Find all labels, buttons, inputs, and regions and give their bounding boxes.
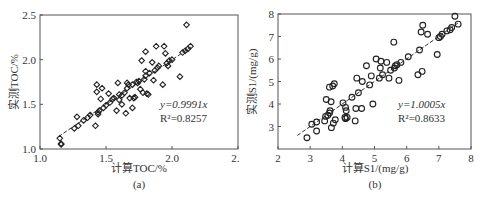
panel-b: 2345678345678 y=1.0005x R²=0.8633 计算S1/(…	[240, 0, 481, 197]
data-point	[380, 72, 386, 78]
data-point	[94, 82, 100, 88]
data-point	[367, 82, 373, 88]
data-point	[149, 60, 155, 66]
x-tick-label: 2.5	[231, 152, 240, 164]
data-point	[425, 31, 431, 37]
caption-a: (a)	[133, 178, 146, 191]
fit-r2-a: R²=0.8257	[160, 112, 208, 124]
data-point	[304, 135, 310, 141]
data-point	[434, 52, 440, 58]
data-point	[163, 51, 169, 57]
y-tick-label: 1.0	[22, 143, 36, 155]
x-axis-title-b: 计算S1/(mg/g)	[342, 161, 409, 175]
data-point	[384, 59, 390, 65]
data-point	[93, 123, 99, 129]
data-point	[396, 77, 402, 83]
data-point	[405, 54, 411, 60]
scatter-plot-a: 1.01.52.02.51.01.52.02.5 y=0.9991x R²=0.…	[0, 0, 240, 197]
data-point	[419, 68, 425, 74]
x-axis-title-a: 计算TOC/%	[111, 161, 167, 174]
data-point	[177, 74, 183, 80]
data-point	[160, 82, 166, 88]
data-point	[377, 65, 383, 71]
y-tick-label: 4	[269, 98, 275, 110]
data-point	[127, 95, 133, 101]
x-tick-label: 8	[468, 152, 474, 164]
data-point	[184, 22, 190, 28]
data-point	[99, 85, 105, 91]
data-point	[130, 105, 136, 111]
y-tick-label: 2.0	[22, 54, 36, 66]
data-point	[352, 118, 358, 124]
data-point	[314, 128, 320, 134]
data-point	[418, 29, 424, 35]
y-tick-label: 2.5	[22, 9, 36, 21]
data-point	[314, 119, 320, 125]
data-point	[114, 108, 120, 114]
data-point	[143, 49, 149, 55]
y-tick-label: 5	[269, 76, 275, 88]
x-tick-label: 2.0	[165, 152, 179, 164]
data-point	[370, 101, 376, 107]
fit-equation-b: y=1.0005x	[397, 98, 446, 110]
y-axis-title-a: 实测TOC/%	[7, 54, 20, 110]
data-point	[364, 63, 370, 69]
data-point	[74, 114, 80, 120]
y-tick-label: 6	[269, 53, 275, 65]
data-point	[94, 89, 100, 95]
y-tick-label: 7	[269, 31, 275, 43]
fit-r2-b: R²=0.8633	[398, 112, 446, 124]
data-point	[359, 106, 365, 112]
data-point	[151, 77, 157, 83]
data-point	[328, 99, 334, 105]
data-point	[391, 39, 397, 45]
y-tick-label: 1.5	[22, 98, 36, 110]
data-point	[115, 80, 121, 86]
data-points-a	[57, 22, 193, 147]
scatter-plot-b: 2345678345678 y=1.0005x R²=0.8633 计算S1/(…	[240, 0, 481, 197]
data-point	[420, 22, 426, 28]
data-point	[57, 135, 63, 141]
y-tick-label: 3	[269, 121, 275, 133]
data-point	[139, 58, 145, 64]
data-point	[153, 43, 159, 49]
data-point	[161, 43, 167, 49]
x-tick-label: 2	[275, 152, 281, 164]
data-point	[368, 73, 374, 79]
data-point	[106, 91, 112, 97]
x-tick-label: 7	[436, 152, 442, 164]
data-point	[98, 96, 104, 102]
caption-b: (b)	[369, 178, 382, 191]
data-point	[386, 75, 392, 81]
x-tick-label: 3	[307, 152, 313, 164]
fit-equation-a: y=0.9991x	[159, 98, 208, 110]
y-tick-label: 8	[269, 8, 275, 20]
data-point	[376, 75, 382, 81]
data-point	[353, 106, 359, 112]
data-point	[417, 47, 423, 53]
data-point	[378, 58, 384, 64]
data-point	[123, 110, 129, 116]
data-point	[359, 79, 365, 85]
y-axis-title-b: 实测S1/(mg/g)	[245, 48, 259, 115]
panel-a: 1.01.52.02.51.01.52.02.5 y=0.9991x R²=0.…	[0, 0, 240, 197]
data-point	[354, 75, 360, 81]
